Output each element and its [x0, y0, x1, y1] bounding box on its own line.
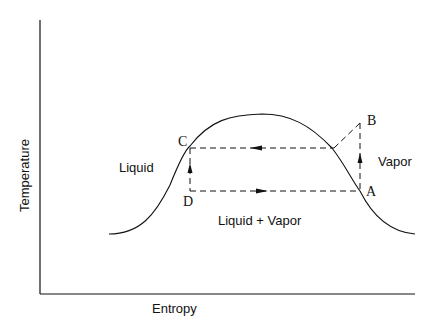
flow-arrows [188, 146, 363, 194]
desuperheat-line [334, 123, 360, 148]
cycle-path [190, 123, 360, 191]
point-a-label: A [366, 184, 377, 199]
x-axis-label: Entropy [152, 301, 197, 316]
point-c-label: C [178, 134, 187, 149]
point-b-label: B [367, 113, 376, 128]
mixture-region-label: Liquid + Vapor [218, 213, 302, 228]
liquid-region-label: Liquid [119, 160, 154, 175]
y-axis-label: Temperature [17, 139, 32, 212]
arrow-up-icon [188, 163, 193, 173]
arrow-left-icon [250, 146, 262, 151]
vapor-region-label: Vapor [378, 154, 412, 169]
arrow-up-icon [358, 153, 363, 163]
point-d-label: D [183, 194, 193, 209]
ts-diagram: C D A B Liquid Vapor Liquid + Vapor Entr… [0, 0, 435, 334]
arrow-right-icon [256, 189, 268, 194]
